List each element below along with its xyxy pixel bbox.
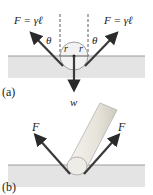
force-label-right: F = γℓ — [104, 14, 133, 26]
leg-tip — [67, 157, 87, 175]
force-label-right: F — [118, 120, 125, 135]
panel-a-floating-sphere: F = γℓ F = γℓ θ θ r r w (a) — [0, 0, 153, 100]
force-label-left: F — [32, 120, 39, 135]
angle-label-left: θ — [46, 34, 51, 46]
leg-diagram — [0, 100, 153, 195]
radius-label-right: r — [79, 43, 83, 54]
force-label-left: F = γℓ — [14, 14, 43, 26]
panel-a-label: (a) — [2, 85, 15, 100]
radius-label-left: r — [64, 43, 68, 54]
panel-b-label: (b) — [2, 180, 16, 195]
angle-label-right: θ — [92, 34, 97, 46]
panel-b-insect-leg: F F (b) — [0, 100, 153, 195]
